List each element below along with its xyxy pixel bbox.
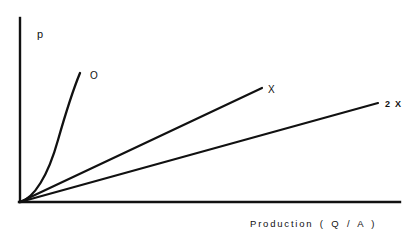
series-label-x: X [268,85,275,95]
series-group [20,73,378,202]
y-axis-label: p [37,29,44,40]
chart-plot-area [0,0,415,249]
series-label-2x: 2 X [385,100,402,109]
x-axis-label: Production ( Q / A ) [250,219,376,229]
production-price-chart: p O X 2 X Production ( Q / A ) [0,0,415,249]
series-label-o: O [90,71,98,81]
series-curve-o [20,73,80,202]
